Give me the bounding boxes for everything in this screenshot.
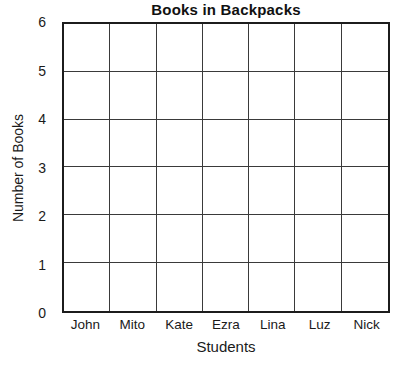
y-tick-label: 4 xyxy=(38,112,46,126)
grid-cell xyxy=(295,24,341,72)
grid-cell xyxy=(295,263,341,311)
chart-title: Books in Backpacks xyxy=(62,1,390,18)
x-tick-label: Kate xyxy=(156,317,203,332)
grid-cell xyxy=(295,120,341,168)
plot-grid xyxy=(62,22,390,313)
grid-cell xyxy=(157,72,203,120)
grid-cell xyxy=(249,167,295,215)
grid-cell xyxy=(64,215,110,263)
grid-cell xyxy=(249,215,295,263)
grid-cell xyxy=(249,24,295,72)
grid-cell xyxy=(64,24,110,72)
x-tick-label: Luz xyxy=(296,317,343,332)
y-tick-label: 5 xyxy=(38,64,46,78)
y-tick-label: 0 xyxy=(38,306,46,320)
x-tick-label: Lina xyxy=(249,317,296,332)
grid-cell xyxy=(157,167,203,215)
y-tick-label: 2 xyxy=(38,209,46,223)
grid-cell xyxy=(249,72,295,120)
grid-cell xyxy=(203,120,249,168)
grid-cell xyxy=(110,72,156,120)
grid-cell xyxy=(203,72,249,120)
grid-cell xyxy=(342,167,388,215)
grid-cell xyxy=(110,167,156,215)
grid-cell xyxy=(203,215,249,263)
y-tick-label: 1 xyxy=(38,258,46,272)
grid-cell xyxy=(110,24,156,72)
x-tick-label: Ezra xyxy=(203,317,250,332)
x-axis-label: Students xyxy=(62,338,390,355)
chart-figure: Books in Backpacks Number of Books 65432… xyxy=(0,0,412,365)
grid-cell xyxy=(203,263,249,311)
y-tick-label: 6 xyxy=(38,15,46,29)
grid-cell xyxy=(295,215,341,263)
grid-cell xyxy=(249,263,295,311)
grid-cell xyxy=(203,24,249,72)
grid-cell xyxy=(157,24,203,72)
x-tick-label: John xyxy=(62,317,109,332)
grid-cell xyxy=(157,120,203,168)
grid-cell xyxy=(64,167,110,215)
grid-cell xyxy=(342,120,388,168)
grid-cell xyxy=(342,72,388,120)
grid-cell xyxy=(295,167,341,215)
x-tick-label: Nick xyxy=(343,317,390,332)
grid-cell xyxy=(64,72,110,120)
grid-cell xyxy=(157,215,203,263)
grid-cell xyxy=(110,263,156,311)
grid-cell xyxy=(342,263,388,311)
y-axis-ticks: 6543210 xyxy=(0,22,56,313)
grid-cell xyxy=(295,72,341,120)
x-axis-category-labels: JohnMitoKateEzraLinaLuzNick xyxy=(62,317,390,332)
y-tick-label: 3 xyxy=(38,161,46,175)
grid-cell xyxy=(110,120,156,168)
grid-cell xyxy=(342,215,388,263)
grid-cell xyxy=(249,120,295,168)
grid-cell xyxy=(203,167,249,215)
grid-cell xyxy=(64,120,110,168)
x-tick-label: Mito xyxy=(109,317,156,332)
grid-cell xyxy=(110,215,156,263)
grid-cell xyxy=(64,263,110,311)
grid-cell xyxy=(157,263,203,311)
grid-cell xyxy=(342,24,388,72)
